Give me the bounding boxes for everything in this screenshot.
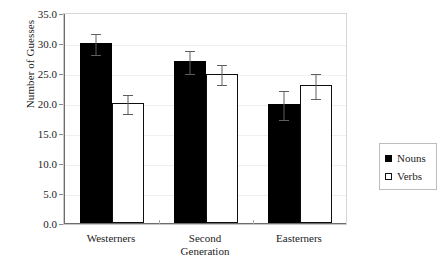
plot-area	[63, 13, 347, 225]
x-axis-category-label: SecondGeneration	[158, 232, 252, 258]
legend-label: Nouns	[397, 152, 426, 164]
error-bar-nouns-1	[91, 34, 101, 56]
error-bar-stem	[284, 91, 285, 121]
error-bar-cap-bottom	[91, 55, 101, 56]
bar-verbs-3	[300, 85, 332, 223]
y-axis-tick-label: 15.0	[17, 129, 57, 139]
x-axis-category-label: Westerners	[64, 232, 158, 245]
x-axis-category-line: Westerners	[64, 232, 158, 245]
y-axis-tick-label: 30.0	[17, 39, 57, 49]
error-bar-nouns-3	[279, 91, 289, 121]
y-axis-tick-label: 0.0	[17, 219, 57, 229]
filled-square-icon	[385, 155, 392, 162]
legend-label: Verbs	[397, 170, 422, 182]
error-bar-nouns-2	[185, 51, 195, 75]
bar-nouns-2	[174, 61, 206, 223]
y-axis-tick-label: 5.0	[17, 189, 57, 199]
x-axis-category-label: Easterners	[252, 232, 346, 245]
error-bar-cap-bottom	[279, 120, 289, 121]
x-axis-category-line: Generation	[158, 245, 252, 258]
error-bar-stem	[222, 65, 223, 85]
bar-nouns-3	[268, 104, 300, 223]
error-bar-cap-bottom	[123, 114, 133, 115]
error-bar-cap-top	[91, 34, 101, 35]
error-bar-cap-top	[185, 51, 195, 52]
x-axis-line	[64, 223, 346, 224]
error-bar-stem	[96, 34, 97, 56]
legend: NounsVerbs	[379, 143, 437, 190]
error-bar-cap-top	[217, 65, 227, 66]
bar-verbs-2	[206, 74, 238, 223]
legend-entry-nouns[interactable]: Nouns	[385, 149, 436, 167]
error-bar-verbs-2	[217, 65, 227, 85]
error-bar-cap-top	[311, 74, 321, 75]
category-separator	[159, 220, 160, 224]
bar-chart-figure: Number of Guesses 0.05.010.015.020.025.0…	[0, 0, 443, 276]
y-axis-tick-label: 25.0	[17, 69, 57, 79]
y-axis-tick-label: 10.0	[17, 159, 57, 169]
x-axis-category-line: Second	[158, 232, 252, 245]
error-bar-cap-top	[123, 95, 133, 96]
error-bar-verbs-1	[123, 95, 133, 114]
x-axis-category-line: Easterners	[252, 232, 346, 245]
error-bar-verbs-3	[311, 74, 321, 99]
bar-nouns-1	[80, 43, 112, 223]
category-separator	[253, 220, 254, 224]
y-axis-tick-label: 20.0	[17, 99, 57, 109]
y-axis-tick-label: 35.0	[17, 9, 57, 19]
error-bar-cap-bottom	[185, 74, 195, 75]
legend-entry-verbs[interactable]: Verbs	[385, 167, 436, 185]
legend-entry-group: NounsVerbs	[385, 149, 436, 185]
open-square-icon	[385, 173, 392, 180]
error-bar-cap-bottom	[311, 99, 321, 100]
error-bar-stem	[190, 51, 191, 75]
error-bar-stem	[316, 74, 317, 99]
error-bar-cap-top	[279, 91, 289, 92]
error-bar-stem	[128, 95, 129, 114]
bar-verbs-1	[112, 103, 144, 223]
error-bar-cap-bottom	[217, 85, 227, 86]
